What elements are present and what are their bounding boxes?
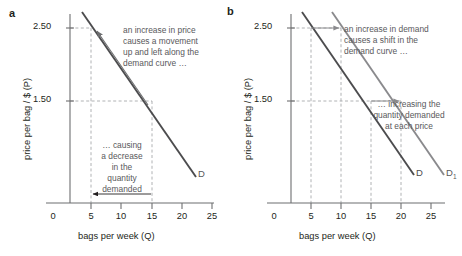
panel-b-ytick-150: 1.50 [254,94,272,104]
panel-a-x-axis-title: bags per week (Q) [78,231,154,241]
note-line: … increasing the [360,99,458,110]
panel-b-y-axis-title: price per bag / $ (P) [243,78,253,160]
note-line: … causing [94,140,150,151]
panel-b-xtick-20: 20 [393,211,409,221]
panel-a: a [0,0,231,256]
panel-a-xtick-5: 5 [85,211,97,221]
panel-a-xtick-20: 20 [174,211,190,221]
note-line: a decrease [94,151,150,162]
panel-a-xtick-10: 10 [113,211,129,221]
note-line: demand curve … [344,46,456,57]
curve-label-D1-subscript: 1 [453,173,457,180]
curve-label-D1-text: D [446,167,453,178]
decrease-in-quantity-note: … causing a decrease in the quantity dem… [94,140,150,195]
panel-b-xtick-25: 25 [423,211,439,221]
panel-a-xtick-25: 25 [204,211,220,221]
curve-label-D: D [416,167,423,178]
panel-b-xtick-10: 10 [333,211,349,221]
curve-label-D1: D1 [446,167,457,180]
note-line: in the [94,162,150,173]
panel-b-xtick-0: 0 [268,211,280,221]
note-line: demand curve … [123,58,223,69]
note-line: up and left along the [123,47,223,58]
note-line: an increase in demand [344,24,456,35]
curve-label-D: D [198,168,205,179]
note-line: quantity demanded [360,110,458,121]
panel-b-x-axis-title: bags per week (Q) [299,231,375,241]
note-line: causes a shift in the [344,35,456,46]
note-line: quantity [94,173,150,184]
panel-a-y-axis-title: price per bag / $ (P) [22,78,32,160]
figure-demand-curves: a [0,0,462,256]
panel-b-ytick-250: 2.50 [254,21,272,31]
increase-in-demand-note: an increase in demand causes a shift in … [344,24,456,57]
panel-b: b [231,0,462,256]
increasing-quantity-note: … increasing the quantity demanded at ea… [360,99,458,132]
note-line: demanded [94,184,150,195]
panel-a-xtick-0: 0 [47,211,59,221]
note-line: an increase in price [123,25,223,36]
panel-a-ytick-150: 1.50 [33,94,51,104]
note-line: at each price [360,121,458,132]
panel-a-ytick-250: 2.50 [33,21,51,31]
panel-b-xtick-5: 5 [305,211,317,221]
note-line: causes a movement [123,36,223,47]
panel-b-xtick-15: 15 [363,211,379,221]
panel-a-xtick-15: 15 [144,211,160,221]
increase-in-price-note: an increase in price causes a movement u… [123,25,223,69]
